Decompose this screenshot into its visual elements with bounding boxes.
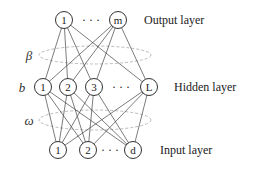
hidden-node-1: 1: [35, 79, 52, 96]
input-node-2: 2: [80, 142, 97, 159]
svg-text:1: 1: [61, 14, 67, 26]
svg-text:m: m: [114, 14, 123, 26]
hidden-node-L: L: [141, 79, 158, 96]
svg-text:d: d: [130, 144, 136, 156]
output-node-1: 1: [56, 12, 73, 29]
hidden-layer-label: Hidden layer: [174, 80, 236, 94]
input-node-1: 1: [50, 142, 67, 159]
svg-text:1: 1: [40, 81, 46, 93]
hidden-node-2: 2: [60, 79, 77, 96]
bias-symbol: b: [19, 80, 26, 95]
output-node-m: m: [110, 12, 127, 29]
neural-network-diagram: 1 · · · m Output layer β b 1 2 3 · · · L…: [0, 0, 253, 172]
hidden-output-edges: [43, 20, 149, 87]
input-hidden-edges: [43, 87, 149, 150]
svg-text:L: L: [146, 81, 153, 93]
beta-symbol: β: [25, 48, 33, 63]
svg-text:1: 1: [55, 144, 61, 156]
svg-text:2: 2: [85, 144, 91, 156]
input-layer-label: Input layer: [160, 143, 212, 157]
input-node-d: d: [125, 142, 142, 159]
omega-symbol: ω: [24, 113, 33, 128]
output-layer-label: Output layer: [144, 13, 204, 27]
hidden-node-3: 3: [86, 79, 103, 96]
svg-text:3: 3: [91, 81, 97, 93]
hidden-ellipsis: · · ·: [112, 80, 130, 94]
svg-text:2: 2: [65, 81, 71, 93]
input-ellipsis: · · ·: [101, 143, 119, 157]
output-ellipsis: · · ·: [82, 13, 100, 27]
